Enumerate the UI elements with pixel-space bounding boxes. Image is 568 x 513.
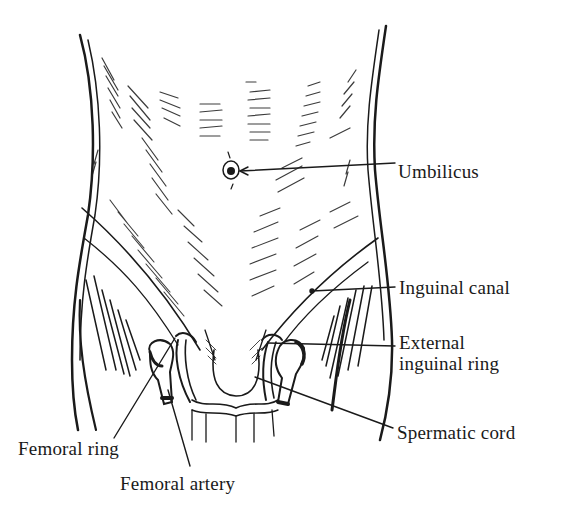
label-spermatic-cord: Spermatic cord bbox=[397, 423, 515, 443]
label-external-inguinal-ring-line1: External bbox=[399, 333, 465, 353]
label-femoral-ring: Femoral ring bbox=[18, 439, 119, 459]
label-umbilicus: Umbilicus bbox=[398, 162, 479, 182]
label-inguinal-canal: Inguinal canal bbox=[399, 278, 510, 298]
label-external-inguinal-ring-line2: inguinal ring bbox=[399, 354, 499, 374]
label-femoral-artery: Femoral artery bbox=[120, 474, 235, 494]
anatomy-figure: Umbilicus Inguinal canal External inguin… bbox=[0, 0, 568, 513]
